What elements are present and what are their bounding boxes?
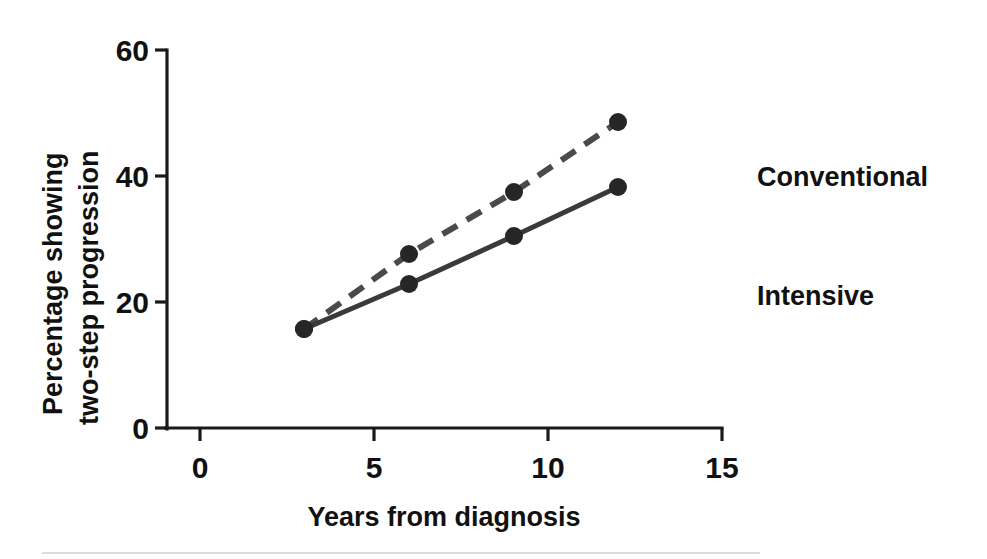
x-axis-tick-labels: 0 5 10 15 [192,451,739,484]
x-tick-label-10: 10 [531,451,564,484]
y-axis-ticks [155,50,167,428]
y-tick-label-20: 20 [116,286,149,319]
data-point [400,245,418,263]
x-tick-label-0: 0 [192,451,209,484]
x-axis-ticks [200,428,722,441]
series-conventional-line [304,122,618,329]
legend-label-conventional: Conventional [757,162,928,192]
y-tick-label-0: 0 [132,412,149,445]
series-conventional [295,113,627,338]
line-chart-canvas: Percentage showing two-step progression … [0,0,987,559]
data-point [400,275,418,293]
y-tick-label-60: 60 [116,34,149,67]
data-point [609,113,627,131]
x-tick-label-5: 5 [366,451,383,484]
data-point [505,183,523,201]
y-axis-tick-labels: 60 40 20 0 [116,34,149,445]
x-tick-label-15: 15 [705,451,738,484]
y-axis-title: Percentage showing two-step progression [38,150,104,425]
chart-figure: Percentage showing two-step progression … [0,0,987,559]
y-tick-label-40: 40 [116,160,149,193]
data-point [505,227,523,245]
x-axis-title: Years from diagnosis [307,502,580,532]
series-intensive [295,178,627,338]
data-point [295,320,313,338]
y-axis-title-line-1: Percentage showing [38,152,68,415]
data-point [609,178,627,196]
series-intensive-line [304,187,618,329]
legend-label-intensive: Intensive [757,281,874,311]
y-axis-title-line-2: two-step progression [74,150,104,425]
